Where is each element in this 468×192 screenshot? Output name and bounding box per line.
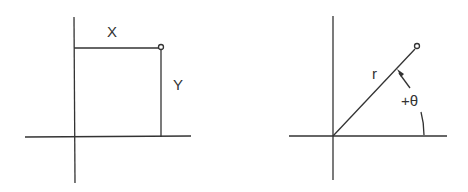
point-marker [159,45,164,50]
coordinate-diagrams: X Y r +θ [0,0,468,192]
arrowhead-icon [397,69,404,77]
cartesian-y-axis [74,17,75,183]
r-label: r [372,65,377,82]
cartesian-x-axis [25,136,191,137]
point-marker [415,44,420,49]
angle-arc [421,112,424,135]
cartesian-diagram: X Y [25,17,191,183]
theta-label: +θ [401,92,418,109]
x-label: X [107,23,117,40]
polar-diagram: r +θ [289,16,447,180]
y-label: Y [173,76,183,93]
